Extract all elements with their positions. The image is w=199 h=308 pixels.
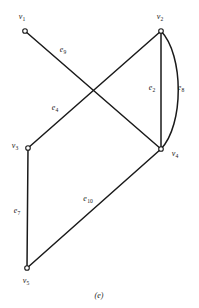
edge-label-e10: e10 (83, 195, 92, 203)
edge-label-e7: e7 (14, 207, 21, 215)
vertex-label-v2: v2 (157, 13, 164, 21)
edge-layer (25, 31, 178, 268)
graph-canvas (0, 0, 199, 308)
edge-e8 (161, 31, 178, 149)
vertex-v2 (159, 29, 164, 34)
vertex-label-v3: v3 (12, 142, 19, 150)
edge-label-e2: e2 (149, 84, 156, 92)
edge-label-e9: e9 (60, 46, 67, 54)
edge-label-e8: e8 (178, 84, 185, 92)
vertex-v1 (23, 29, 28, 34)
vertex-label-v5: v5 (23, 277, 30, 285)
vertex-v4 (159, 147, 164, 152)
vertex-label-v1: v1 (19, 13, 26, 21)
figure-caption: (e) (95, 291, 104, 300)
graph-figure: v1 v2 v3 v4 v5 e9 e4 e2 e8 e7 e10 (e) (0, 0, 199, 308)
vertex-v5 (25, 266, 30, 271)
edge-e7 (27, 148, 28, 268)
edge-e10 (27, 149, 161, 268)
vertex-layer (23, 29, 164, 271)
edge-label-e4: e4 (52, 104, 59, 112)
edge-e4 (28, 31, 161, 148)
vertex-label-v4: v4 (172, 150, 179, 158)
vertex-v3 (26, 146, 31, 151)
